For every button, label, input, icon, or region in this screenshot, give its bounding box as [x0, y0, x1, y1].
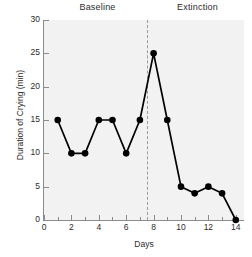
data-point [95, 117, 102, 124]
data-point [82, 150, 89, 157]
data-point [205, 183, 212, 190]
data-point [164, 117, 171, 124]
data-point [54, 117, 61, 124]
series-markers [54, 50, 239, 223]
crying-duration-chart: Baseline Extinction Duration of Crying (… [0, 0, 252, 257]
data-point [150, 50, 157, 57]
data-point [68, 150, 75, 157]
data-point [123, 150, 130, 157]
data-point [178, 183, 185, 190]
data-point [109, 117, 116, 124]
data-series-layer [0, 0, 252, 257]
series-line [58, 53, 236, 220]
data-point [232, 217, 239, 224]
data-point [137, 117, 144, 124]
data-point [219, 190, 226, 197]
data-point [191, 190, 198, 197]
